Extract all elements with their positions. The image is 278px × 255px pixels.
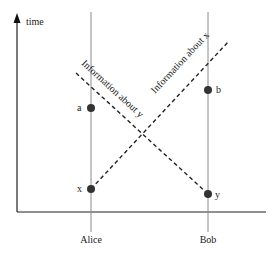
event-a [87, 104, 95, 112]
event-x [87, 185, 95, 193]
spacetime-diagram: time Information about y Information abo… [0, 0, 278, 255]
event-y [204, 190, 212, 198]
label-info-about-x: Information about x [148, 29, 211, 95]
event-y-label: y [215, 189, 220, 200]
bob-label: Bob [200, 234, 217, 245]
event-a-label: a [77, 102, 82, 113]
time-axis-arrow-icon [14, 13, 21, 23]
event-x-label: x [77, 183, 82, 194]
alice-label: Alice [80, 234, 102, 245]
signal-info-about-y [76, 73, 208, 194]
time-axis-label: time [26, 16, 44, 27]
event-b-label: b [216, 84, 221, 95]
event-b [204, 86, 212, 94]
